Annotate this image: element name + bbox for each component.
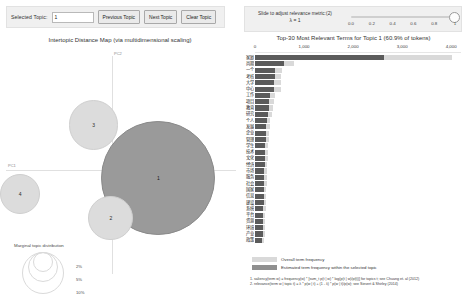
barchart-term-label: 产业 [240,231,254,237]
barchart-term-label: 环境 [240,225,254,231]
bar-overall-frequency [255,99,274,104]
barchart-term-label: 文化 [240,155,254,161]
bar-topic-frequency [255,200,264,205]
marginal-topic-distribution-legend: Marginal topic distribution 2%5%10% [14,243,110,299]
selected-topic-input[interactable]: 1 [52,12,94,23]
bar-overall-frequency [255,175,267,180]
legend-overall-row: Overall term frequency [252,256,324,262]
relevance-slider-ticks: 0.00.20.40.60.81 [349,21,459,29]
barchart-row[interactable]: 项目 [240,99,467,105]
topic-bubble-label: 3 [92,122,95,128]
barchart-term-label: 教育 [240,105,254,111]
relevance-slider-bar: Slide to adjust relevance metric:(2) λ =… [244,6,462,32]
barchart-term-label: 管理 [240,137,254,143]
barchart-row[interactable]: 服务 [240,175,467,181]
topic-bubble-label: 2 [109,215,112,221]
bar-overall-frequency [255,168,267,173]
barchart-row[interactable]: 平台 [240,213,467,219]
barchart-term-label: 系统 [240,206,254,212]
bar-overall-frequency [255,150,268,155]
barchart-row[interactable]: 社会 [240,181,467,187]
intertopic-distance-map[interactable]: PC2 PC1 1324 Marginal topic distribution… [0,47,238,297]
barchart-x-tick: 0 [254,44,256,49]
bar-topic-frequency [255,80,274,85]
barchart-row[interactable]: 中心 [240,87,467,93]
barchart-term-label: 技术 [240,149,254,155]
bar-overall-frequency [255,112,272,117]
barchart-row[interactable]: 技术 [240,150,467,156]
barchart-x-tick: 4,000 [446,44,457,49]
barchart-term-label: 发展 [240,124,254,130]
barchart-term-label: 工作 [240,92,254,98]
barchart-row[interactable]: 研究 [240,112,467,118]
barchart-row[interactable]: 建设 [240,200,467,206]
topic-bubble-label: 4 [19,191,22,197]
bar-overall-frequency [255,80,281,85]
bar-topic-frequency [255,131,266,136]
barchart-row[interactable]: 市场 [240,168,467,174]
topic-bubble-4[interactable]: 4 [0,174,40,214]
bar-overall-frequency [255,61,294,66]
bar-topic-frequency [255,175,264,180]
barchart-term-label: 信息 [240,193,254,199]
bar-overall-frequency [255,131,269,136]
barchart-row[interactable]: 个人 [240,118,467,124]
bar-topic-frequency [255,150,265,155]
barchart-row[interactable]: 家庭 [240,55,467,61]
bar-overall-frequency [255,194,266,199]
barchart-x-tick: 1,000 [299,44,310,49]
marginal-size-circles [18,250,78,296]
bar-overall-frequency [255,162,267,167]
barchart-row[interactable]: 产业 [240,231,467,237]
slider-tick: 0.6 [410,21,416,26]
barchart-row[interactable]: 一个 [240,68,467,74]
barchart-row[interactable]: 大学 [240,80,467,86]
bar-overall-frequency [255,55,452,60]
barchart-row[interactable]: 学生 [240,143,467,149]
bar-topic-frequency [255,99,269,104]
next-topic-button[interactable]: Next Topic [144,10,177,24]
barchart-row[interactable]: 发展 [240,124,467,130]
barchart-row[interactable]: 尚期 [240,61,467,67]
top-terms-title: Top-30 Most Relevant Terms for Topic 1 (… [240,35,467,41]
barchart-footnotes: 1. saliency(term w) = frequency(w) * [su… [250,277,467,287]
barchart-x-tick: 3,000 [397,44,408,49]
barchart-row[interactable]: 政策 [240,238,467,244]
previous-topic-button[interactable]: Previous Topic [98,10,140,24]
barchart-row[interactable]: 考核 [240,74,467,80]
legend-topic-label: Estimated term frequency within the sele… [281,265,377,270]
topic-bubble-3[interactable]: 3 [69,100,118,149]
topic-bubble-label: 1 [157,175,160,181]
bar-topic-frequency [255,194,264,199]
barchart-row[interactable]: 信息 [240,194,467,200]
bar-overall-frequency [255,156,268,161]
marginal-size-label: 10% [76,290,84,295]
bar-topic-frequency [255,55,384,60]
barchart-row[interactable]: 文化 [240,156,467,162]
barchart-row[interactable]: 国家 [240,187,467,193]
barchart-term-label: 经济 [240,162,254,168]
barchart-row[interactable]: 环境 [240,225,467,231]
barchart-term-label: 研究 [240,111,254,117]
barchart-term-label: 尚期 [240,61,254,67]
topic-bubble-2[interactable]: 2 [88,196,133,241]
barchart-term-label: 服务 [240,174,254,180]
barchart-row[interactable]: 工作 [240,93,467,99]
barchart-row[interactable]: 资源 [240,219,467,225]
legend-overall-swatch [252,257,277,262]
marginal-size-label: 2% [76,264,82,269]
clear-topic-button[interactable]: Clear Topic [181,10,216,24]
barchart-row[interactable]: 管理 [240,137,467,143]
barchart-row[interactable]: 企业 [240,131,467,137]
barchart-term-label: 中心 [240,86,254,92]
bar-topic-frequency [255,105,269,110]
marginal-size-circle [22,252,64,294]
pc1-axis-label: PC1 [8,163,16,168]
intertopic-map-title: Intertopic Distance Map (via multidimens… [0,37,240,43]
barchart-row[interactable]: 系统 [240,206,467,212]
bar-topic-frequency [255,93,270,98]
barchart-row[interactable]: 教育 [240,105,467,111]
barchart-row[interactable]: 经济 [240,162,467,168]
relevance-slider-track[interactable] [351,16,455,18]
bar-topic-frequency [255,143,265,148]
